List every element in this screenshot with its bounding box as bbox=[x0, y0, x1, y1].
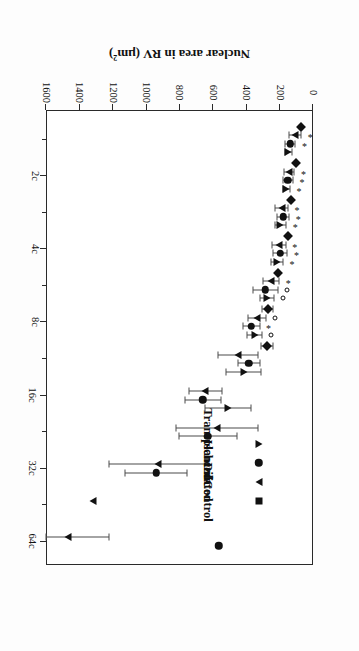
significance-asterisk: * bbox=[294, 247, 299, 257]
significance-open-circle bbox=[281, 296, 286, 301]
significance-asterisk: * bbox=[302, 138, 307, 148]
data-point-ischemic bbox=[245, 359, 253, 367]
data-point-dilated bbox=[154, 460, 161, 468]
error-bar-cap bbox=[242, 323, 243, 330]
error-bar-cap bbox=[279, 278, 280, 285]
data-point-dilated bbox=[64, 533, 71, 541]
value-axis-tick bbox=[246, 104, 247, 110]
data-point-transplanted bbox=[240, 368, 247, 376]
error-bar bbox=[46, 537, 109, 538]
value-axis-label: 200 bbox=[274, 85, 285, 101]
error-bar-cap bbox=[275, 205, 276, 212]
error-bar-cap bbox=[125, 469, 126, 476]
ploidy-axis-label: 16c bbox=[27, 387, 38, 402]
error-bar-cap bbox=[283, 168, 284, 175]
ploidy-axis-tick bbox=[40, 248, 46, 249]
ploidy-axis-tick bbox=[40, 175, 46, 176]
ploidy-axis-label: 32c bbox=[27, 461, 38, 476]
error-bar-cap bbox=[257, 424, 258, 431]
ploidy-axis-label: 8c bbox=[30, 317, 41, 327]
error-bar-cap bbox=[46, 534, 47, 541]
value-axis-tick bbox=[146, 104, 147, 110]
error-bar-cap bbox=[251, 405, 252, 412]
data-point-ischemic bbox=[215, 542, 223, 550]
legend-marker-transplanted bbox=[256, 440, 263, 448]
y-axis-title: Nuclear area in RV (µm2) bbox=[30, 46, 330, 62]
value-axis-tick bbox=[179, 104, 180, 110]
error-bar-cap bbox=[187, 469, 188, 476]
error-bar-cap bbox=[287, 205, 288, 212]
error-bar-cap bbox=[277, 286, 278, 293]
data-point-transplanted bbox=[264, 294, 271, 302]
ploidy-axis-minor-tick bbox=[42, 358, 46, 359]
data-point-dilated bbox=[214, 424, 221, 432]
error-bar-cap bbox=[221, 396, 222, 403]
error-bar-cap bbox=[287, 250, 288, 257]
significance-asterisk: * bbox=[308, 129, 313, 139]
error-bar-cap bbox=[263, 278, 264, 285]
data-point-transplanted bbox=[274, 258, 281, 266]
error-bar-cap bbox=[247, 331, 248, 338]
error-bar-cap bbox=[288, 132, 289, 139]
error-bar-cap bbox=[261, 368, 262, 375]
ploidy-axis-label: 4c bbox=[30, 244, 41, 254]
value-axis-tick bbox=[112, 104, 113, 110]
data-point-transplanted bbox=[285, 148, 292, 156]
data-point-transplanted bbox=[283, 185, 290, 193]
data-point-dilated bbox=[278, 204, 285, 212]
value-axis-label: 400 bbox=[241, 85, 252, 101]
significance-open-circle bbox=[269, 332, 274, 337]
value-axis-tick bbox=[313, 104, 314, 110]
error-bar-cap bbox=[271, 241, 272, 248]
data-point-ischemic bbox=[199, 396, 207, 404]
error-bar-cap bbox=[259, 360, 260, 367]
ploidy-axis-minor-tick bbox=[42, 504, 46, 505]
error-bar-cap bbox=[274, 222, 275, 229]
ploidy-axis-tick bbox=[40, 321, 46, 322]
error-bar-cap bbox=[295, 140, 296, 147]
error-bar-cap bbox=[274, 295, 275, 302]
significance-open-circle bbox=[284, 287, 289, 292]
error-bar-cap bbox=[226, 368, 227, 375]
figure-rotation-wrapper: 02004006008001000120014001600 2c4c8c16c3… bbox=[0, 0, 359, 651]
significance-asterisk: * bbox=[296, 183, 301, 193]
error-bar-cap bbox=[260, 295, 261, 302]
legend-marker-dilated bbox=[256, 478, 263, 486]
data-point-dilated bbox=[275, 241, 282, 249]
error-bar-cap bbox=[262, 331, 263, 338]
value-axis-tick bbox=[212, 104, 213, 110]
ploidy-axis-minor-tick bbox=[42, 431, 46, 432]
data-point-dilated bbox=[291, 131, 298, 139]
chart-figure: 02004006008001000120014001600 2c4c8c16c3… bbox=[0, 0, 359, 651]
error-bar-cap bbox=[109, 461, 110, 468]
error-bar-cap bbox=[271, 258, 272, 265]
error-bar-cap bbox=[222, 388, 223, 395]
data-point-ischemic bbox=[262, 286, 270, 294]
value-axis-tick bbox=[279, 104, 280, 110]
data-point-ischemic bbox=[152, 469, 160, 477]
error-bar-cap bbox=[248, 314, 249, 321]
legend-marker-control bbox=[256, 498, 263, 505]
plot-area bbox=[46, 110, 313, 565]
error-bar-cap bbox=[257, 351, 258, 358]
significance-asterisk: * bbox=[266, 320, 271, 330]
data-point-dilated bbox=[234, 351, 241, 359]
ploidy-axis-tick bbox=[40, 468, 46, 469]
data-point-transplanted bbox=[277, 221, 284, 229]
value-axis-tick bbox=[46, 104, 47, 110]
error-bar-cap bbox=[252, 286, 253, 293]
data-point-ischemic bbox=[248, 323, 256, 331]
data-point-dilated bbox=[254, 314, 261, 322]
ploidy-axis-minor-tick bbox=[42, 285, 46, 286]
error-bar-cap bbox=[272, 343, 273, 350]
significance-asterisk: * bbox=[293, 219, 298, 229]
legend-marker-ischemic bbox=[255, 459, 263, 467]
ploidy-axis-label: 2c bbox=[30, 171, 41, 181]
data-point-ischemic bbox=[280, 213, 288, 221]
error-bar-cap bbox=[286, 222, 287, 229]
error-bar-cap bbox=[259, 323, 260, 330]
error-bar-cap bbox=[178, 433, 179, 440]
error-bar-cap bbox=[282, 258, 283, 265]
significance-asterisk: * bbox=[289, 256, 294, 266]
ploidy-axis-minor-tick bbox=[42, 139, 46, 140]
